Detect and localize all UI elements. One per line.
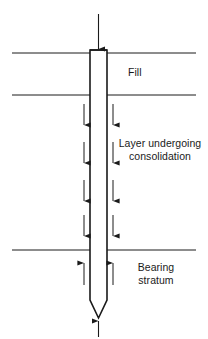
stratum-label-bearing: Bearing stratum [118, 261, 194, 286]
pile-negative-skin-friction-diagram: Fill Layer undergoing consolidation Bear… [0, 0, 208, 339]
stratum-label-fill: Fill [128, 66, 184, 79]
diagram-canvas [0, 0, 208, 339]
stratum-label-consolidation: Layer undergoing consolidation [114, 137, 206, 162]
pile-outline [90, 50, 107, 318]
